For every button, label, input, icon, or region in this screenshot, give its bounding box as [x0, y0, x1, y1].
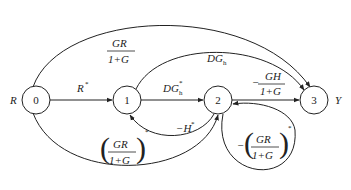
node-2: 2	[204, 86, 232, 114]
label-edge-1-2: DG h *	[162, 79, 183, 97]
svg-text:0: 0	[33, 94, 39, 106]
signal-flow-graph: 0 1 2 3 R Y R * DG h * − GH 1+G GR 1+G D…	[0, 0, 351, 190]
input-label: R	[9, 94, 17, 106]
svg-text:1+G: 1+G	[252, 149, 273, 161]
svg-text:3: 3	[311, 94, 317, 106]
svg-text:−: −	[252, 76, 259, 88]
svg-text:GR: GR	[112, 37, 127, 49]
svg-text:h: h	[179, 89, 183, 97]
node-0: 0	[22, 86, 50, 114]
svg-text:*: *	[288, 124, 292, 132]
label-edge-0-3: GR 1+G	[107, 37, 135, 65]
svg-text:GH: GH	[265, 70, 282, 82]
svg-text:GR: GR	[256, 133, 271, 145]
svg-text:*: *	[191, 120, 195, 128]
svg-text:1+G: 1+G	[108, 53, 129, 65]
svg-text:−H: −H	[176, 122, 192, 134]
svg-text:h: h	[223, 59, 227, 67]
svg-text:*: *	[145, 128, 149, 136]
svg-text:1+G: 1+G	[260, 85, 281, 97]
svg-text:R: R	[76, 82, 84, 94]
svg-text:): )	[136, 131, 146, 165]
output-label: Y	[335, 94, 343, 106]
label-edge-2-2: − ( GR 1+G ) *	[237, 124, 292, 161]
svg-text:*: *	[85, 80, 89, 88]
svg-text:DG: DG	[162, 82, 179, 94]
svg-text:1+G: 1+G	[109, 154, 130, 166]
svg-text:2: 2	[215, 94, 221, 106]
label-edge-1-3: DG h	[206, 52, 227, 67]
svg-text:GR: GR	[113, 138, 128, 150]
node-3: 3	[300, 86, 328, 114]
label-edge-0-1: R *	[76, 80, 89, 94]
node-1: 1	[113, 86, 141, 114]
svg-text:DG: DG	[206, 52, 223, 64]
label-edge-2-3: − GH 1+G	[252, 70, 285, 97]
svg-text:1: 1	[124, 94, 130, 106]
svg-text:*: *	[179, 79, 183, 87]
label-edge-0-2: ( GR 1+G ) *	[100, 128, 149, 166]
